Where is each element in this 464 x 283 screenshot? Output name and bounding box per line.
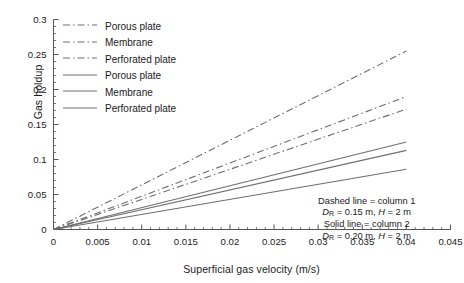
legend-key-solid-icon: [63, 91, 97, 93]
legend-label: Perforated plate: [105, 103, 176, 114]
x-tick-label: 0.02: [221, 236, 240, 247]
annotation-solid-detail: DR = 0.20 m, H = 2 m: [318, 231, 415, 243]
annotation-dashed-detail: DR = 0.15 m, H = 2 m: [318, 207, 415, 219]
x-axis-title: Superficial gas velocity (m/s): [53, 263, 450, 275]
y-axis-title: Gas holdup: [32, 32, 44, 152]
x-tick-label: 0.025: [262, 236, 286, 247]
x-tick-label: 0.045: [438, 236, 462, 247]
x-tick-label: 0: [51, 236, 56, 247]
legend-label: Membrane: [105, 87, 153, 98]
legend-item: Membrane: [63, 35, 176, 52]
y-tick-label: 0.1: [33, 154, 46, 165]
chart-figure: 00.0050.010.0150.020.0250.030.0350.040.0…: [0, 0, 464, 283]
legend-label: Membrane: [105, 37, 153, 48]
legend-key-solid-icon: [63, 108, 97, 110]
legend-item: Membrane: [63, 84, 176, 101]
legend-item: Perforated plate: [63, 51, 176, 68]
legend-item: Porous plate: [63, 68, 176, 85]
x-tick-label: 0.005: [86, 236, 110, 247]
legend-label: Porous plate: [105, 21, 161, 32]
chart-legend: Porous plateMembranePerforated platePoro…: [63, 18, 176, 117]
legend-label: Perforated plate: [105, 54, 176, 65]
y-tick-label: 0.05: [28, 189, 47, 200]
y-tick-label: 0.3: [33, 14, 46, 25]
chart-annotation: Dashed line = column 1 DR = 0.15 m, H = …: [318, 196, 415, 243]
legend-item: Perforated plate: [63, 101, 176, 118]
annotation-solid-head: Solid line = column 2: [318, 219, 415, 230]
legend-key-dashdot-icon: [63, 42, 97, 44]
legend-label: Porous plate: [105, 70, 161, 81]
x-tick-label: 0.01: [132, 236, 151, 247]
annotation-dashed-head: Dashed line = column 1: [318, 196, 415, 207]
legend-key-dashdot-icon: [63, 58, 97, 60]
legend-key-solid-icon: [63, 75, 97, 77]
y-tick-label: 0: [41, 224, 46, 235]
legend-item: Porous plate: [63, 18, 176, 35]
legend-key-dashdot-icon: [63, 25, 97, 27]
x-tick-label: 0.015: [174, 236, 198, 247]
